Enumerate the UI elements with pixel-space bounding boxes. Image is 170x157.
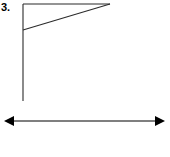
arrow-head-right-icon [155, 116, 165, 126]
hypotenuse-line [23, 4, 110, 30]
figure-canvas: 3. [0, 0, 170, 157]
arrow-head-left-icon [4, 116, 14, 126]
figure-drawing [0, 0, 170, 157]
